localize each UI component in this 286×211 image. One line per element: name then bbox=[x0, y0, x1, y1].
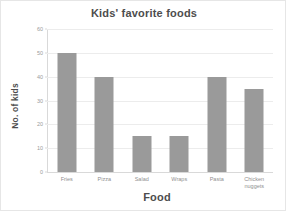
y-axis-tick-label: 40 bbox=[37, 74, 43, 80]
y-axis-tick-mark bbox=[45, 100, 47, 101]
y-axis-title-text: No. of kids bbox=[10, 83, 20, 129]
y-axis-tick-mark bbox=[45, 29, 47, 30]
bar-slot bbox=[161, 29, 199, 172]
x-axis-category-label: Chicken nuggets bbox=[236, 176, 274, 190]
bar-slot bbox=[123, 29, 161, 172]
y-axis-tick-mark bbox=[45, 172, 47, 173]
bar-slot bbox=[236, 29, 274, 172]
plot-area: 6050403020100 bbox=[47, 29, 273, 173]
y-axis-tick-mark bbox=[45, 148, 47, 149]
bar bbox=[207, 77, 226, 172]
bar bbox=[95, 77, 114, 172]
x-axis-category-label: Wraps bbox=[161, 176, 199, 183]
bar-chart: Kids' favorite foods No. of kids 6050403… bbox=[0, 0, 286, 211]
bar bbox=[245, 89, 264, 172]
bar bbox=[57, 53, 76, 172]
bar-slot bbox=[198, 29, 236, 172]
y-axis-tick-mark bbox=[45, 76, 47, 77]
y-axis-tick-mark bbox=[45, 124, 47, 125]
x-axis-title: Food bbox=[41, 191, 273, 203]
y-axis-tick-label: 20 bbox=[37, 121, 43, 127]
y-axis-tick-label: 30 bbox=[37, 98, 43, 104]
x-axis-category-label: Pizza bbox=[86, 176, 124, 183]
x-axis-line bbox=[47, 172, 273, 173]
x-axis-category-label: Fries bbox=[48, 176, 86, 183]
y-axis-tick-label: 60 bbox=[37, 26, 43, 32]
y-axis-tick-label: 50 bbox=[37, 50, 43, 56]
chart-title: Kids' favorite foods bbox=[1, 7, 286, 19]
y-axis-tick-label: 0 bbox=[40, 169, 43, 175]
x-axis-category-label: Pasta bbox=[198, 176, 236, 183]
bar-slot bbox=[86, 29, 124, 172]
bar bbox=[132, 136, 151, 172]
bar-slot bbox=[48, 29, 86, 172]
y-axis-tick-mark bbox=[45, 52, 47, 53]
bars-group bbox=[48, 29, 273, 172]
bar bbox=[170, 136, 189, 172]
x-axis-category-label: Salad bbox=[123, 176, 161, 183]
y-axis-tick-label: 10 bbox=[37, 145, 43, 151]
y-axis-title: No. of kids bbox=[8, 61, 22, 151]
